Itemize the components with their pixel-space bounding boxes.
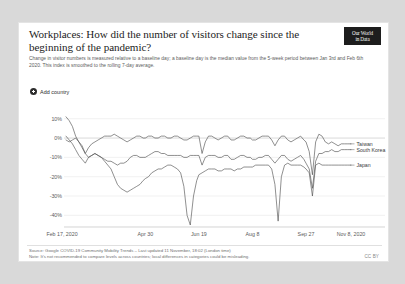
x-axis-labels: Feb 17, 2020Apr 30Jun 19Aug 8Sep 27Nov 8…: [46, 231, 365, 237]
add-country-label: Add country: [40, 89, 69, 95]
owid-logo[interactable]: Our World in Data: [344, 27, 381, 45]
line-chart[interactable]: 10%0%-10%-20%-30%-40% Feb 17, 2020Apr 30…: [19, 97, 390, 245]
y-axis-labels: 10%0%-10%-20%-30%-40%: [50, 116, 63, 219]
owid-logo-line2: in Data: [344, 36, 381, 42]
x-tick-label: Feb 17, 2020: [46, 231, 77, 237]
add-country-button[interactable]: Add country: [30, 88, 69, 95]
series-labels: TaiwanSouth KoreaJapan: [350, 141, 385, 168]
x-tick-label: Aug 8: [246, 231, 260, 237]
chart-canvas: 10%0%-10%-20%-30%-40% Feb 17, 2020Apr 30…: [19, 97, 390, 245]
x-tick-label: Jun 19: [191, 231, 207, 237]
source-note: Source: Google COVID-19 Community Mobili…: [29, 248, 329, 260]
page-title: Workplaces: How did the number of visito…: [29, 28, 324, 54]
chart-subtitle: Change in visitor numbers is measured re…: [29, 56, 365, 69]
series-line: [66, 138, 351, 225]
x-tick-label: Sep 27: [298, 231, 315, 237]
license-label: CC BY: [364, 254, 379, 259]
plus-circle-icon: [30, 88, 37, 95]
series-line: [66, 136, 351, 188]
y-tick-label: -40%: [50, 212, 63, 218]
x-tick-label: Nov 8, 2020: [337, 231, 366, 237]
method-note: Note: It's not recommended to compare le…: [29, 254, 329, 260]
screenshot-root: Workplaces: How did the number of visito…: [0, 0, 405, 284]
y-tick-label: -30%: [50, 193, 63, 199]
y-tick-label: 10%: [51, 116, 62, 122]
footer-divider: [27, 245, 382, 246]
y-tick-label: -10%: [50, 154, 63, 160]
chart-card: Workplaces: How did the number of visito…: [18, 22, 389, 262]
series-label[interactable]: South Korea: [357, 147, 386, 153]
gridlines: [64, 119, 385, 227]
y-tick-label: -20%: [50, 174, 63, 180]
series-lines: [66, 117, 351, 225]
x-tick-label: Apr 30: [137, 231, 153, 237]
series-label[interactable]: Japan: [357, 162, 371, 168]
y-tick-label: 0%: [54, 135, 62, 141]
